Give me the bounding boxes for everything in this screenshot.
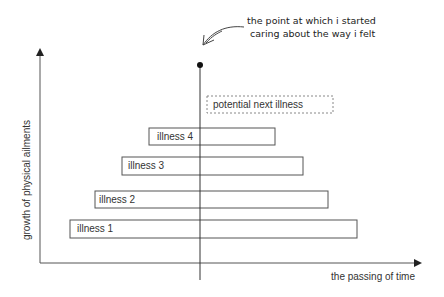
bar-illness-4: illness 4 [149, 128, 275, 145]
bar-illness-2: illness 2 [95, 191, 328, 208]
annotation-arrow-icon [203, 27, 244, 45]
bar-illness-3: illness 3 [122, 157, 303, 175]
svg-text:illness 2: illness 2 [99, 194, 136, 205]
diagram-canvas: growth of physical ailments the passing … [0, 0, 444, 297]
y-axis-label: growth of physical ailments [21, 120, 32, 240]
svg-text:illness 1: illness 1 [77, 223, 114, 234]
annotation-line-2: caring about the way i felt [250, 28, 375, 39]
svg-text:illness 4: illness 4 [157, 131, 194, 142]
x-axis-label: the passing of time [331, 271, 415, 282]
bar-potential-next-illness: potential next illness [207, 96, 333, 113]
turning-point-dot [197, 62, 203, 68]
annotation-line-1: the point at which i started [247, 15, 376, 26]
svg-text:illness 3: illness 3 [128, 160, 165, 171]
svg-text:potential next illness: potential next illness [213, 99, 303, 110]
bar-illness-1: illness 1 [70, 220, 357, 238]
